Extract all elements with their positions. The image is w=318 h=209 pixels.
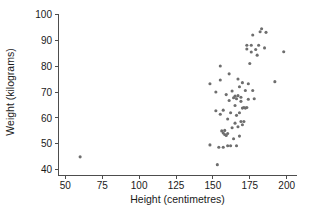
data-point — [238, 85, 241, 88]
data-point — [260, 27, 263, 30]
data-point — [208, 82, 211, 85]
data-point — [245, 47, 248, 50]
data-point — [219, 65, 222, 68]
data-point — [241, 123, 244, 126]
data-point — [247, 98, 250, 101]
data-point — [238, 111, 241, 114]
data-point — [229, 144, 232, 147]
data-point — [250, 44, 253, 47]
data-point — [239, 120, 242, 123]
x-tick-label: 50 — [60, 180, 72, 191]
data-point — [241, 81, 244, 84]
data-point — [254, 48, 257, 51]
data-point — [233, 104, 236, 107]
data-point — [232, 137, 235, 140]
x-tick-label: 75 — [97, 180, 109, 191]
data-point — [282, 50, 285, 53]
data-point — [273, 80, 276, 83]
data-point — [238, 135, 241, 138]
x-tick-label: 175 — [241, 180, 258, 191]
data-point — [226, 117, 229, 120]
data-point — [216, 163, 219, 166]
data-point — [222, 109, 225, 112]
data-point — [236, 125, 239, 128]
data-point — [231, 126, 234, 129]
data-point — [228, 99, 231, 102]
data-point — [250, 51, 253, 54]
x-axis-title: Height (centimetres) — [130, 193, 225, 205]
data-point — [253, 97, 256, 100]
data-point — [219, 79, 222, 82]
data-point — [242, 120, 245, 123]
data-point — [223, 129, 226, 132]
data-point — [233, 122, 236, 125]
y-tick-label: 80 — [41, 61, 53, 72]
data-point — [219, 113, 222, 116]
data-point — [231, 89, 234, 92]
y-tick-label: 50 — [41, 138, 53, 149]
x-tick-label: 200 — [278, 180, 295, 191]
y-tick-label: 90 — [41, 35, 53, 46]
data-point — [225, 93, 228, 96]
y-tick-label: 60 — [41, 113, 53, 124]
data-point — [226, 144, 229, 147]
data-point — [214, 90, 217, 93]
data-point — [239, 100, 242, 103]
data-point — [263, 46, 266, 49]
y-tick-label: 40 — [41, 164, 53, 175]
data-point — [229, 111, 232, 114]
x-tick-label: 125 — [168, 180, 185, 191]
data-point — [235, 114, 238, 117]
scatter-plot-canvas: 4050607080901005075100125150175200Height… — [0, 0, 318, 209]
data-point-group — [79, 27, 286, 166]
data-point — [208, 143, 211, 146]
data-point — [244, 89, 247, 92]
data-point — [251, 89, 254, 92]
data-point — [248, 62, 251, 65]
data-point — [235, 97, 238, 100]
y-tick-label: 100 — [35, 9, 52, 20]
data-point — [251, 33, 254, 36]
data-point — [245, 44, 248, 47]
y-tick-label: 70 — [41, 87, 53, 98]
data-point — [236, 94, 239, 97]
data-point — [217, 146, 220, 149]
data-point — [264, 31, 267, 34]
data-point — [239, 96, 242, 99]
data-point — [228, 72, 231, 75]
data-point — [257, 44, 260, 47]
y-axis-title: Weight (kilograms) — [4, 48, 16, 135]
data-point — [245, 106, 248, 109]
data-point — [256, 54, 259, 57]
scatter-chart: 4050607080901005075100125150175200Height… — [0, 0, 318, 209]
x-tick-label: 100 — [131, 180, 148, 191]
data-point — [236, 77, 239, 80]
data-point — [259, 30, 262, 33]
data-point — [222, 146, 225, 149]
x-tick-label: 150 — [205, 180, 222, 191]
data-point — [226, 132, 229, 135]
data-point — [79, 155, 82, 158]
data-point — [233, 95, 236, 98]
data-point — [235, 144, 238, 147]
data-point — [247, 82, 250, 85]
data-point — [214, 109, 217, 112]
